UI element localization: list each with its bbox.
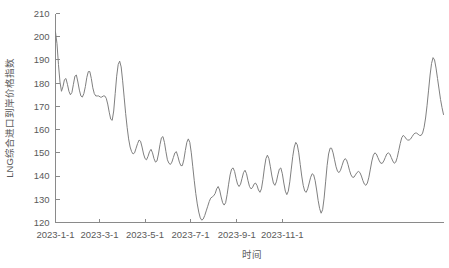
y-tick-label: 200 (34, 31, 50, 42)
y-tick-label: 190 (34, 54, 50, 65)
line-chart: 120130140150160170180190200210 2023-1-12… (0, 0, 449, 268)
y-tick-label: 120 (34, 217, 50, 228)
y-tick-label: 160 (34, 124, 50, 135)
x-tick-label: 2023-3-1 (81, 229, 119, 240)
axis-lines (56, 14, 444, 223)
x-tick-label: 2023-7-1 (172, 229, 210, 240)
x-axis-tick-labels: 2023-1-12023-3-12023-5-12023-7-12023-9-1… (36, 229, 303, 240)
y-axis-title: LNG综合进口到岸价格指数 (4, 58, 15, 178)
x-axis-title: 时间 (242, 249, 262, 260)
y-tick-label: 170 (34, 101, 50, 112)
y-tick-label: 150 (34, 147, 50, 158)
y-tick-label: 130 (34, 194, 50, 205)
x-tick-label: 2023-1-1 (36, 229, 74, 240)
y-axis-tick-labels: 120130140150160170180190200210 (34, 8, 50, 228)
x-tick-label: 2023-9-1 (218, 229, 256, 240)
chart-container: 120130140150160170180190200210 2023-1-12… (0, 0, 449, 268)
x-tick-label: 2023-5-1 (126, 229, 164, 240)
y-tick-label: 140 (34, 170, 50, 181)
y-tick-label: 210 (34, 8, 50, 19)
x-tick-label: 2023-11-1 (261, 229, 304, 240)
x-axis-tick-marks (56, 219, 283, 223)
y-tick-label: 180 (34, 78, 50, 89)
plot-axes (56, 14, 444, 223)
data-series-line (56, 32, 444, 220)
